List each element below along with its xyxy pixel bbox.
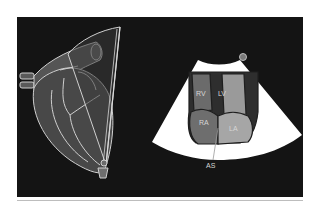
transducer-marker — [101, 160, 107, 166]
heart-anatomy — [20, 27, 120, 178]
label-as: AS — [206, 162, 216, 169]
label-la: LA — [229, 125, 238, 132]
probe-position-dot — [240, 54, 247, 61]
label-ra: RA — [199, 119, 209, 126]
heart-illustration: RV LV RA LA AS — [0, 0, 316, 210]
label-lv: LV — [218, 90, 226, 97]
transducer-probe — [98, 168, 108, 178]
label-rv: RV — [196, 90, 206, 97]
echo-sector-view: RV LV RA LA AS — [152, 54, 302, 170]
vessel-stub — [20, 73, 34, 79]
vessel-stub — [20, 82, 34, 88]
chamber-ra — [190, 109, 218, 144]
